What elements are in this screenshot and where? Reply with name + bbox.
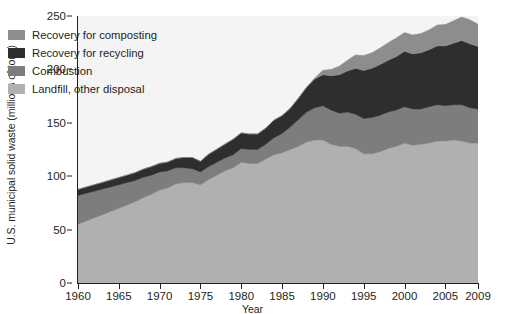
y-tick-label: 100 bbox=[47, 170, 66, 182]
y-tick-mark bbox=[67, 16, 72, 17]
legend-label: Landfill, other disposal bbox=[32, 83, 144, 95]
legend-label: Recovery for composting bbox=[32, 29, 157, 41]
x-tick-mark bbox=[119, 284, 120, 289]
legend-item: Recovery for composting bbox=[8, 26, 183, 43]
y-tick-label: 250 bbox=[47, 10, 66, 22]
x-tick-label: 2005 bbox=[433, 290, 459, 302]
x-tick-mark bbox=[78, 284, 79, 289]
x-axis-line bbox=[77, 283, 479, 284]
x-tick-mark bbox=[478, 284, 479, 289]
y-tick-label: 50 bbox=[53, 224, 66, 236]
x-tick-mark bbox=[323, 284, 324, 289]
x-tick-mark bbox=[364, 284, 365, 289]
x-tick-label: 2000 bbox=[392, 290, 418, 302]
y-tick-mark bbox=[67, 229, 72, 230]
legend-item: Combustion bbox=[8, 62, 183, 79]
area-series bbox=[78, 140, 478, 283]
x-tick-label: 1995 bbox=[351, 290, 377, 302]
legend-label: Recovery for recycling bbox=[32, 47, 144, 59]
x-tick-label: 1960 bbox=[65, 290, 91, 302]
legend-item: Recovery for recycling bbox=[8, 44, 183, 61]
legend-label: Combustion bbox=[32, 65, 92, 77]
x-tick-label: 1990 bbox=[310, 290, 336, 302]
legend-swatch bbox=[8, 66, 25, 76]
x-tick-mark bbox=[241, 284, 242, 289]
x-tick-label: 1970 bbox=[147, 290, 173, 302]
x-tick-mark bbox=[445, 284, 446, 289]
legend-swatch bbox=[8, 48, 25, 58]
x-tick-mark bbox=[405, 284, 406, 289]
chart-legend: Recovery for compostingRecovery for recy… bbox=[8, 26, 183, 98]
x-tick-mark bbox=[160, 284, 161, 289]
chart-figure: U.S. municipal solid waste (millions of … bbox=[0, 0, 505, 314]
x-tick-label: 1965 bbox=[106, 290, 132, 302]
y-tick-mark bbox=[67, 122, 72, 123]
x-tick-mark bbox=[282, 284, 283, 289]
x-tick-label: 1985 bbox=[269, 290, 295, 302]
legend-item: Landfill, other disposal bbox=[8, 80, 183, 97]
y-tick-mark bbox=[67, 176, 72, 177]
y-tick-label: 0 bbox=[60, 277, 66, 289]
legend-swatch bbox=[8, 30, 25, 40]
x-tick-label: 2009 bbox=[465, 290, 491, 302]
x-tick-label: 1975 bbox=[188, 290, 214, 302]
y-tick-mark bbox=[67, 283, 72, 284]
x-tick-label: 1980 bbox=[228, 290, 254, 302]
legend-swatch bbox=[8, 84, 25, 94]
x-axis-title: Year bbox=[0, 303, 505, 314]
x-tick-mark bbox=[200, 284, 201, 289]
y-tick-label: 150 bbox=[47, 117, 66, 129]
